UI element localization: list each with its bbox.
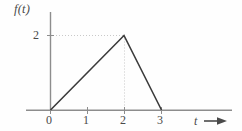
- y-axis-label: f(t): [14, 3, 30, 16]
- x-axis-tick-label-1: 1: [83, 114, 89, 126]
- x-axis-tick-label-2: 2: [120, 114, 126, 126]
- x-axis-label: t: [194, 115, 197, 127]
- x-axis-tick-label-0: 0: [46, 114, 52, 126]
- x-axis-tick-label-3: 3: [157, 114, 163, 126]
- triangular-pulse-curve: [51, 36, 162, 111]
- arrow-right-icon: [204, 116, 228, 126]
- y-axis-tick-label-2: 2: [33, 29, 39, 41]
- plot-area: [0, 0, 242, 131]
- figure-canvas: f(t) 2 0 1 2 3 t: [0, 0, 242, 131]
